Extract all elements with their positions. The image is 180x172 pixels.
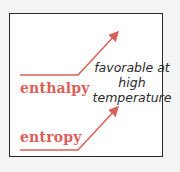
- note-line-2: high: [92, 75, 172, 90]
- enthalpy-label: enthalpy: [20, 80, 90, 96]
- note-line-1: favorable at: [92, 60, 172, 75]
- note-line-3: temperature: [92, 90, 172, 105]
- entropy-label: entropy: [20, 129, 82, 145]
- favorable-note: favorable at high temperature: [92, 60, 172, 105]
